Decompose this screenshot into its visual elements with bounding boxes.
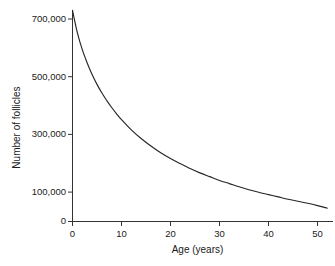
y-tick-label-0: 0 — [12, 216, 66, 226]
follicle-count-curve — [73, 10, 328, 208]
y-axis-title: Number of follicles — [11, 63, 22, 193]
x-tick-label-30: 30 — [214, 229, 225, 239]
axis-lines — [72, 11, 333, 222]
y-axis-tick-marks — [68, 19, 73, 222]
x-axis-tick-marks — [73, 222, 318, 227]
x-axis-title: Age (years) — [30, 244, 335, 255]
x-tick-label-20: 20 — [165, 229, 176, 239]
x-tick-label-40: 40 — [263, 229, 274, 239]
y-tick-label-700000: 700,000 — [12, 14, 66, 24]
x-tick-label-0: 0 — [70, 229, 75, 239]
x-tick-label-50: 50 — [312, 229, 323, 239]
x-tick-label-10: 10 — [116, 229, 127, 239]
follicle-decline-chart: 700,000 500,000 300,000 100,000 0 0 10 2… — [0, 0, 335, 266]
